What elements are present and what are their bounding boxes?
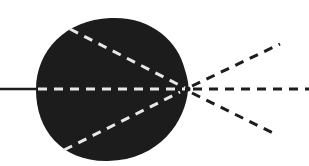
focal-point — [186, 87, 191, 92]
ray-diagram — [0, 0, 309, 166]
outer-upper-ray — [192, 44, 280, 86]
outer-lower-ray — [192, 93, 275, 134]
